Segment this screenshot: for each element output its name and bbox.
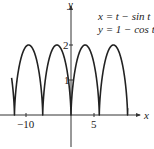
y-axis-label: y [68,0,73,10]
x-axis-arrow [136,113,141,117]
tick-label-x-neg10: −10 [17,119,34,130]
equation-x: x = t − sin t [98,10,150,23]
tick-label-x-5: 5 [91,119,97,130]
chart-root: x y −10 5 2 1 x = t − sin t y = 1 − cos … [0,0,154,149]
tick-label-y-2: 2 [63,40,69,51]
x-axis-label: x [144,110,149,121]
equation-y: y = 1 − cos t [98,23,154,36]
tick-label-y-1: 1 [64,75,70,86]
